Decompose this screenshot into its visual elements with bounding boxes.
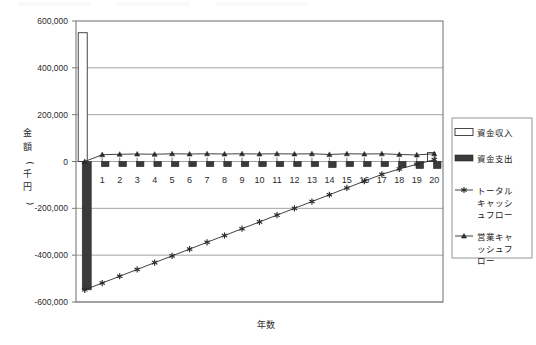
svg-text:キャッシ: キャッシ	[477, 198, 513, 208]
svg-text:): )	[25, 202, 35, 206]
svg-text:-600,000: -600,000	[34, 297, 68, 307]
svg-text:千: 千	[23, 169, 32, 179]
svg-text:6: 6	[187, 175, 192, 185]
x-axis-title: 年数	[257, 319, 275, 330]
svg-text:1: 1	[100, 175, 105, 185]
svg-text:-400,000: -400,000	[34, 250, 68, 260]
svg-text:600,000: 600,000	[37, 16, 68, 26]
svg-text:19: 19	[412, 175, 422, 185]
svg-text:15: 15	[342, 175, 352, 185]
chart-canvas: 600,000400,000200,0000-200,000-400,000-6…	[0, 0, 536, 345]
svg-text:11: 11	[272, 175, 281, 185]
svg-text:額: 額	[23, 141, 32, 152]
svg-text:7: 7	[205, 175, 210, 185]
svg-text:資金収入: 資金収入	[477, 128, 513, 138]
svg-text:12: 12	[289, 175, 299, 185]
svg-text:400,000: 400,000	[37, 63, 68, 73]
x-axis-ticks	[85, 158, 435, 162]
svg-text:3: 3	[135, 175, 140, 185]
svg-text:(: (	[25, 161, 35, 165]
y-axis-tick-labels: 600,000400,000200,0000-200,000-400,000-6…	[34, 16, 68, 307]
svg-text:-200,000: -200,000	[34, 203, 68, 213]
svg-text:18: 18	[394, 175, 404, 185]
svg-text:資金支出: 資金支出	[477, 154, 513, 164]
svg-text:5: 5	[170, 175, 175, 185]
cash-flow-chart: 600,000400,000200,0000-200,000-400,000-6…	[0, 0, 536, 345]
svg-text:トータル: トータル	[477, 186, 513, 196]
svg-text:10: 10	[254, 175, 264, 185]
svg-text:ュフロー: ュフロー	[477, 210, 513, 220]
legend: 資金収入資金支出トータルキャッシュフロー営業キャッシュフロー	[452, 118, 532, 266]
gridlines	[76, 68, 443, 302]
svg-text:年数: 年数	[257, 319, 275, 330]
svg-text:14: 14	[324, 175, 334, 185]
svg-text:0: 0	[63, 157, 68, 167]
x-axis-tick-labels: 01234567891011121314151617181920	[82, 175, 439, 185]
svg-text:200,000: 200,000	[37, 110, 68, 120]
svg-text:ロー: ロー	[477, 256, 495, 266]
svg-text:金: 金	[23, 127, 32, 138]
svg-text:ッシュフ: ッシュフ	[477, 244, 513, 254]
svg-text:営業キャ: 営業キャ	[477, 232, 513, 242]
svg-text:13: 13	[307, 175, 317, 185]
y-axis-title: 金額(千円)	[23, 127, 36, 205]
svg-text:円: 円	[23, 182, 32, 192]
y-axis-ticks	[72, 21, 76, 302]
svg-text:2: 2	[117, 175, 122, 185]
series-income-bars	[78, 33, 435, 162]
svg-text:8: 8	[222, 175, 227, 185]
svg-text:20: 20	[429, 175, 439, 185]
svg-text:9: 9	[240, 175, 245, 185]
svg-text:4: 4	[152, 175, 157, 185]
